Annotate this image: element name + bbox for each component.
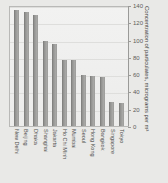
x-axis-label: Hong Kong: [90, 129, 96, 157]
bar-slot: [117, 7, 127, 127]
x-axis-label: Dhaka: [32, 129, 38, 145]
bar-slot: [88, 7, 98, 127]
y-axis-tick: [128, 6, 131, 7]
x-axis-label-slot: Ho Chi Minh: [59, 128, 69, 183]
y-axis-tick: [128, 41, 131, 42]
bar-slot: [31, 7, 41, 127]
y-axis-tick: [128, 23, 131, 24]
bar: [81, 75, 86, 127]
x-axis-label: Bangkok: [99, 129, 105, 150]
x-axis-baseline: [9, 126, 129, 127]
x-axis-label: Seoul: [80, 129, 86, 143]
bar: [52, 44, 57, 127]
x-axis-label-slot: Seoul: [78, 128, 88, 183]
x-axis-label-slot: New Delhi: [11, 128, 21, 183]
x-axis-label-slot: Bangkok: [97, 128, 107, 183]
bar: [14, 10, 19, 127]
x-axis-label: Tokyo: [118, 129, 124, 143]
bar-slot: [98, 7, 108, 127]
bar: [43, 41, 48, 127]
bar-slot: [69, 7, 79, 127]
plot-area: [9, 6, 128, 127]
x-axis-label: New Delhi: [13, 129, 19, 154]
bar-slot: [50, 7, 60, 127]
bar: [33, 15, 38, 127]
x-axis-label-slot: Hong Kong: [88, 128, 98, 183]
bar-series: [10, 7, 128, 127]
bar: [109, 102, 114, 127]
bar: [24, 12, 29, 127]
x-axis-label: Shanghai: [42, 129, 48, 152]
x-axis-label: Singapore: [109, 129, 115, 154]
bar: [62, 60, 67, 127]
y-axis-title: Concentration of particulates, microgram…: [136, 6, 150, 127]
x-axis-label-slot: Dhaka: [30, 128, 40, 183]
x-axis-label-slot: Beijing: [21, 128, 31, 183]
y-axis-tick: [128, 110, 131, 111]
bar: [71, 60, 76, 127]
y-axis-tick: [128, 127, 131, 128]
x-axis-label-slot: Tokyo: [116, 128, 126, 183]
x-axis-label: Mumbai: [71, 129, 77, 149]
y-axis-tick: [128, 58, 131, 59]
x-axis-label: Jakarta: [51, 129, 57, 147]
bar: [100, 77, 105, 127]
x-axis-label-slot: Jakarta: [49, 128, 59, 183]
y-axis-tick: [128, 92, 131, 93]
bar-slot: [22, 7, 32, 127]
x-axis-label-slot: Singapore: [107, 128, 117, 183]
bar-slot: [60, 7, 70, 127]
chart-container: 020406080100120140 Concentration of part…: [0, 0, 168, 183]
bar: [119, 103, 124, 127]
x-axis-label-slot: Shanghai: [40, 128, 50, 183]
bar-slot: [12, 7, 22, 127]
x-axis-labels: New DelhiBeijingDhakaShanghaiJakartaHo C…: [9, 128, 128, 183]
bar: [90, 76, 95, 127]
x-axis-label: Beijing: [23, 129, 29, 146]
x-axis-label: Ho Chi Minh: [61, 129, 67, 159]
bar-slot: [107, 7, 117, 127]
x-axis-label-slot: Mumbai: [68, 128, 78, 183]
bar-slot: [79, 7, 89, 127]
bar-slot: [41, 7, 51, 127]
y-axis-tick: [128, 75, 131, 76]
